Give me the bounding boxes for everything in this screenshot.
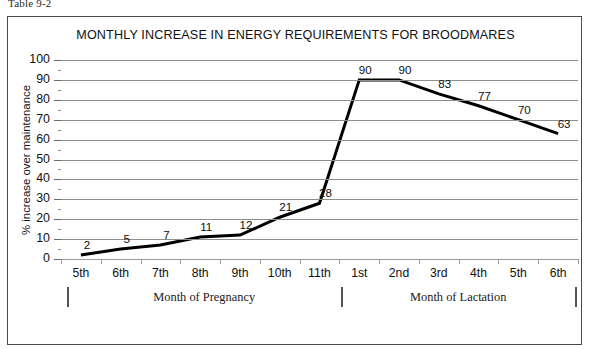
y-tick-minor xyxy=(58,189,61,190)
y-tick-major xyxy=(54,80,61,81)
x-tick-label: 9th xyxy=(220,266,260,280)
gridline xyxy=(61,219,578,220)
x-tick-label: 5th xyxy=(498,266,538,280)
y-tick-major xyxy=(54,140,61,141)
data-label: 63 xyxy=(558,117,571,130)
y-tick-label: 100 xyxy=(29,52,50,66)
data-label: 90 xyxy=(399,63,412,76)
y-tick-label: 30 xyxy=(36,191,50,205)
data-label: 28 xyxy=(319,186,332,199)
x-tick-label: 4th xyxy=(459,266,499,280)
x-tick xyxy=(459,259,460,264)
x-tick-label: 2nd xyxy=(379,266,419,280)
y-tick-label: 90 xyxy=(36,72,50,86)
y-tick-minor xyxy=(58,90,61,91)
y-tick-major xyxy=(54,120,61,121)
data-label: 83 xyxy=(438,77,451,90)
y-axis-title: % increase over maintenance xyxy=(18,60,34,259)
x-tick xyxy=(220,259,221,264)
gridline xyxy=(61,160,578,161)
y-tick-major xyxy=(54,239,61,240)
x-tick-label: 3rd xyxy=(419,266,459,280)
table-caption: Table 9-2 xyxy=(8,0,52,9)
y-tick-label: 40 xyxy=(36,171,50,185)
y-tick-major xyxy=(54,259,61,260)
x-tick xyxy=(61,259,62,264)
chart-frame: MONTHLY INCREASE IN ENERGY REQUIREMENTS … xyxy=(7,16,582,345)
y-tick-minor xyxy=(58,249,61,250)
x-tick xyxy=(260,259,261,264)
gridline xyxy=(61,239,578,240)
x-tick xyxy=(180,259,181,264)
x-tick xyxy=(578,259,579,264)
data-label: 70 xyxy=(518,103,531,116)
y-tick-label: 20 xyxy=(36,211,50,225)
data-label: 21 xyxy=(279,200,292,213)
x-tick-label: 7th xyxy=(141,266,181,280)
x-tick xyxy=(379,259,380,264)
gridline xyxy=(61,120,578,121)
series-polyline xyxy=(81,80,558,255)
x-tick xyxy=(141,259,142,264)
gridline xyxy=(61,60,578,61)
y-tick-label: 80 xyxy=(36,92,50,106)
gridline xyxy=(61,140,578,141)
x-axis-labels: 5th6th7th8th9th10th11th1st2nd3rd4th5th6t… xyxy=(61,266,578,284)
axis-group-band: Month of PregnancyMonth of Lactation xyxy=(15,285,576,315)
x-axis-line xyxy=(61,259,578,260)
plot-area: 1009080706050403020100 25711122128909083… xyxy=(61,60,578,259)
data-label: 7 xyxy=(163,228,169,241)
y-tick-major xyxy=(54,199,61,200)
gridline xyxy=(61,80,578,81)
gridline xyxy=(61,100,578,101)
y-tick-minor xyxy=(58,110,61,111)
chart-title: MONTHLY INCREASE IN ENERGY REQUIREMENTS … xyxy=(8,28,583,42)
x-tick-label: 5th xyxy=(61,266,101,280)
y-tick-major xyxy=(54,160,61,161)
y-tick-minor xyxy=(58,209,61,210)
y-tick-minor xyxy=(58,229,61,230)
data-label: 12 xyxy=(240,218,253,231)
x-tick-label: 11th xyxy=(300,266,340,280)
x-tick xyxy=(498,259,499,264)
y-tick-major xyxy=(54,219,61,220)
y-tick-minor xyxy=(58,150,61,151)
y-tick-label: 50 xyxy=(36,152,50,166)
x-tick xyxy=(339,259,340,264)
axis-group-label: Month of Lactation xyxy=(341,290,575,305)
y-tick-label: 60 xyxy=(36,132,50,146)
x-tick xyxy=(300,259,301,264)
x-tick-label: 10th xyxy=(260,266,300,280)
y-axis-title-label: % increase over maintenance xyxy=(20,84,32,234)
axis-group-label: Month of Pregnancy xyxy=(67,290,341,305)
x-tick-label: 1st xyxy=(339,266,379,280)
data-label: 77 xyxy=(478,89,491,102)
y-tick-label: 70 xyxy=(36,112,50,126)
x-tick-label: 8th xyxy=(180,266,220,280)
y-tick-major xyxy=(54,179,61,180)
y-tick-label: 0 xyxy=(43,251,50,265)
x-tick-label: 6th xyxy=(101,266,141,280)
y-tick-major xyxy=(54,100,61,101)
group-bracket xyxy=(575,287,577,307)
y-tick-minor xyxy=(58,70,61,71)
data-label: 5 xyxy=(123,232,129,245)
x-tick xyxy=(538,259,539,264)
gridline xyxy=(61,179,578,180)
x-tick-label: 6th xyxy=(538,266,578,280)
y-tick-label: 10 xyxy=(36,231,50,245)
data-label: 11 xyxy=(200,220,212,233)
data-label: 90 xyxy=(359,63,372,76)
data-label: 2 xyxy=(84,238,90,251)
y-tick-major xyxy=(54,60,61,61)
y-tick-minor xyxy=(58,130,61,131)
x-tick xyxy=(419,259,420,264)
x-tick xyxy=(101,259,102,264)
gridline xyxy=(61,199,578,200)
y-tick-minor xyxy=(58,169,61,170)
